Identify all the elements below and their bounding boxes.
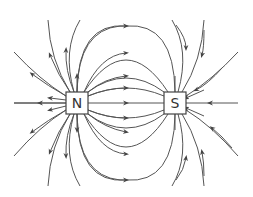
field-lines-connecting-top [77,26,175,96]
field-lines-connecting-bottom [77,110,175,180]
south-pole-label: S [171,95,180,111]
north-pole: N [66,92,88,114]
magnetic-field-diagram: N S [0,0,253,197]
south-pole: S [164,92,186,114]
north-pole-label: N [72,95,82,111]
